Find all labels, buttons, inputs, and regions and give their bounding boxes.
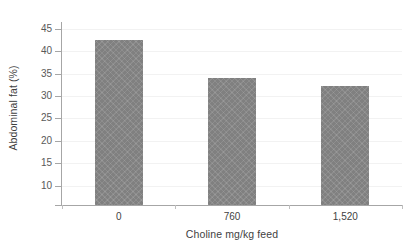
bars-layer xyxy=(0,0,414,205)
bar-chart: Abdominal fat (%) 4540353025201510 Choli… xyxy=(0,0,414,247)
bar[interactable] xyxy=(321,86,369,205)
x-axis-tick-mark xyxy=(62,205,63,209)
y-axis-tick-mark xyxy=(55,51,61,52)
x-axis-line xyxy=(55,205,403,206)
y-axis-tick-mark xyxy=(55,163,61,164)
y-axis-tick-mark xyxy=(55,141,61,142)
y-axis-tick-mark xyxy=(55,118,61,119)
x-axis-tick-label: 760 xyxy=(197,211,267,223)
y-axis-tick-mark xyxy=(55,96,61,97)
bar[interactable] xyxy=(95,40,143,205)
x-axis-tick-mark xyxy=(289,205,290,209)
bar[interactable] xyxy=(208,78,256,205)
x-axis-tick-label: 0 xyxy=(84,211,154,223)
x-axis-tick-mark xyxy=(175,205,176,209)
y-axis-tick-mark xyxy=(55,29,61,30)
x-axis-title: Choline mg/kg feed xyxy=(62,228,402,240)
x-axis-tick-mark xyxy=(402,205,403,209)
y-axis-tick-mark xyxy=(55,74,61,75)
x-axis-tick-label: 1,520 xyxy=(310,211,380,223)
y-axis-tick-mark xyxy=(55,186,61,187)
